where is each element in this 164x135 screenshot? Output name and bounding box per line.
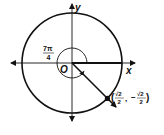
x-coord-numerator: √2 — [115, 91, 122, 97]
x-coord-denominator: 2 — [118, 99, 122, 105]
unit-circle-diagram: y x O 7π 4 ( √2 2 , − √2 2 ) — [0, 0, 164, 135]
y-coord-denominator: 2 — [140, 99, 144, 105]
point-on-circle — [105, 96, 110, 101]
y-coord-sign: − — [131, 93, 136, 102]
terminal-side-ray — [72, 63, 116, 107]
svg-text:,: , — [125, 94, 127, 103]
angle-numerator: 7π — [43, 45, 53, 52]
angle-denominator: 4 — [47, 54, 51, 61]
y-axis-label: y — [74, 2, 81, 13]
point-coordinates-label: ( √2 2 , − √2 2 ) — [111, 91, 149, 105]
y-coord-numerator: √2 — [137, 91, 144, 97]
x-axis-label: x — [125, 65, 132, 76]
svg-text:): ) — [146, 92, 149, 103]
origin-label: O — [60, 64, 68, 75]
